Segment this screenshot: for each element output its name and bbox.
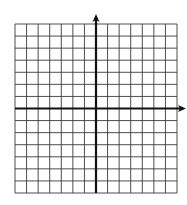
coordinate-grid [0, 0, 187, 205]
background [0, 0, 187, 205]
